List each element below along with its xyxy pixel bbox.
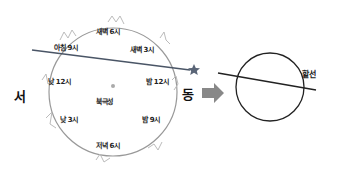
secant-label: 할선	[302, 68, 316, 79]
horizon-line	[32, 50, 190, 70]
polaris-dot	[111, 84, 115, 88]
time-label-afternoon-3: 낮 3시	[60, 114, 78, 124]
west-label: 서	[14, 86, 26, 105]
star-icon	[188, 64, 200, 75]
diagram-canvas	[0, 0, 338, 174]
time-label-dawn-6: 새벽 6시	[96, 26, 120, 36]
east-label: 동	[182, 84, 194, 103]
time-label-noon-12: 낮 12시	[48, 76, 71, 86]
time-label-morning-9: 아침 9시	[54, 42, 78, 52]
right-arrow-icon	[202, 83, 224, 103]
polaris-label: 북극성	[96, 96, 113, 106]
time-label-night-9: 밤 9시	[142, 114, 160, 124]
time-label-dawn-3: 새벽 3시	[130, 44, 154, 54]
time-label-evening-6: 저녁 6시	[96, 140, 120, 150]
simplified-circle	[236, 53, 304, 121]
time-label-midnight-12: 밤 12시	[146, 76, 169, 86]
